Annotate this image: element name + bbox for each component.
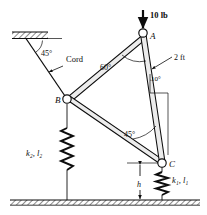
spring-k1-coil [156,172,168,195]
leader-2ft [152,57,172,69]
angle-label-wall-45: 45° [41,49,52,58]
dimension-label-h: h [137,180,141,189]
spring-k2 [61,104,73,200]
wall-hatch [12,32,48,39]
dimension-label-2ft: 2 ft [174,53,186,62]
ground-hatch [10,200,200,205]
dimension-h [127,163,158,199]
leader-cord [49,66,63,72]
angle-label-10: 10° [151,75,161,83]
joint-label-a: A [149,31,156,41]
joint-label-c: C [169,159,176,169]
angle-label-45-at-c: 45° [124,130,135,139]
load-label: 10 lb [150,10,168,20]
angle-45-at-c [133,126,156,139]
member-ac [141,34,166,163]
joint-label-b: B [55,95,61,105]
ground-support [10,200,200,205]
angle-45-arc [133,126,156,139]
joint-b-pin [63,95,71,103]
cord-leader [49,66,63,72]
member-bc-body [68,97,164,165]
cord-label: Cord [66,54,84,64]
dimension-2ft-leader [152,57,172,69]
joint-a-pin [139,29,147,37]
spring-k1 [156,167,168,200]
wall-support [12,32,48,39]
member-ac-body [141,34,166,163]
mechanics-figure: 10 lb A B C 45° 60° 10° 45° 2 ft h Cord … [0,0,207,215]
joint-c-pin [158,159,166,167]
cord-line [26,39,67,100]
spring-k2-coil [61,128,73,170]
spring-label-k2: k₂, l₂ [26,148,42,158]
member-bc [68,97,164,165]
spring-label-k1: k₁, l₁ [172,175,188,185]
figure-canvas: 10 lb A B C 45° 60° 10° 45° 2 ft h Cord … [0,0,207,215]
angle-label-60: 60° [100,63,111,72]
cord-member [26,39,67,100]
